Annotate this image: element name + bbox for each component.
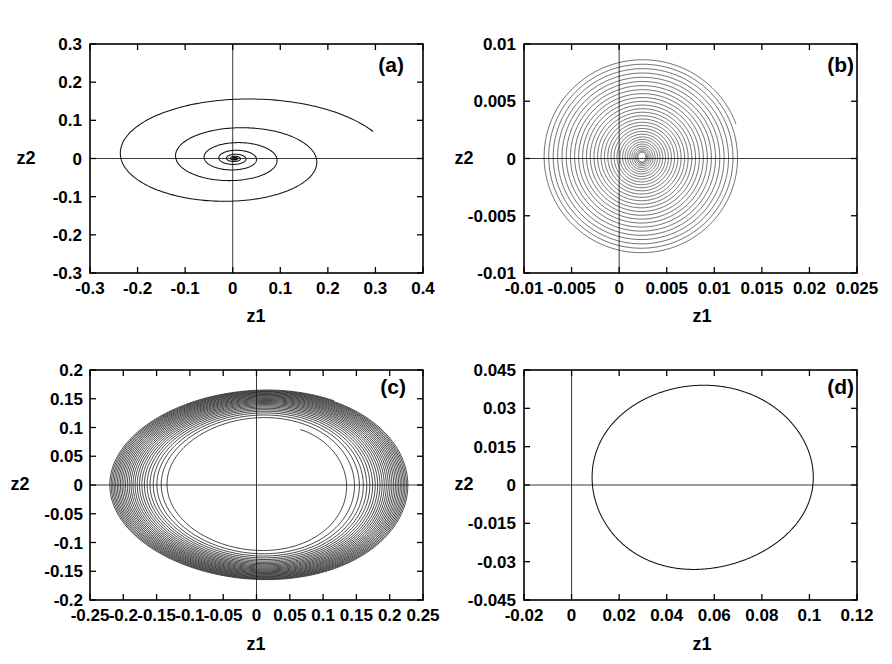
y-tick-label: -0.015 [468, 514, 516, 533]
figure-phase-portraits: -0.3-0.2-0.100.10.20.3 -0.3-0.2-0.100.10… [0, 0, 892, 664]
x-tick-label: 0.2 [378, 606, 402, 625]
x-tick-label: 0.02 [793, 279, 826, 298]
y-tick-label: 0.2 [58, 73, 82, 92]
x-tick-label: 0.15 [340, 606, 373, 625]
panel-c-plot [90, 370, 423, 600]
y-tick-label: 0.01 [483, 35, 516, 54]
panel-c-ticklabels-y: -0.2-0.15-0.1-0.0500.050.10.150.2 [44, 361, 83, 610]
y-tick-label: 0.005 [473, 92, 516, 111]
trajectory-path [120, 99, 372, 201]
y-tick-label: 0 [507, 150, 516, 169]
panel-a-ylabel: z2 [16, 148, 35, 168]
panel-b-trajectory [544, 60, 737, 253]
panel-a-plot [90, 44, 423, 273]
y-tick-label: -0.005 [468, 207, 516, 226]
x-tick-label: 0.02 [603, 606, 636, 625]
x-tick-label: 0.25 [406, 606, 439, 625]
x-tick-label: -0.15 [137, 606, 176, 625]
x-tick-label: 0.08 [745, 606, 778, 625]
panel-c-ticklabels-x: -0.25-0.2-0.15-0.1-0.0500.050.10.150.20.… [71, 606, 440, 625]
panel-d-ticklabels-y: -0.045-0.03-0.01500.0150.030.045 [468, 361, 516, 610]
x-tick-label: -0.25 [71, 606, 110, 625]
x-tick-label: 0.12 [840, 606, 873, 625]
panel-c-ylabel: z2 [10, 474, 29, 494]
x-tick-label: -0.01 [505, 279, 544, 298]
panel-d-trajectory [592, 385, 813, 569]
panel-c-label: (c) [380, 375, 406, 398]
panel-d: -0.045-0.03-0.01500.0150.030.045 -0.0200… [446, 332, 892, 664]
panel-d-svg: -0.045-0.03-0.01500.0150.030.045 -0.0200… [446, 332, 892, 664]
y-tick-label: 0.1 [58, 111, 82, 130]
panel-b-svg: -0.01-0.00500.0050.01 -0.01-0.00500.0050… [446, 0, 892, 332]
trajectory-path [544, 60, 737, 253]
x-tick-label: 0.015 [741, 279, 784, 298]
x-tick-label: -0.2 [123, 279, 152, 298]
panel-c-svg: -0.2-0.15-0.1-0.0500.050.10.150.2 -0.25-… [0, 332, 446, 664]
y-tick-label: 0 [507, 476, 516, 495]
y-tick-label: 0.1 [59, 419, 83, 438]
x-tick-label: 0.1 [798, 606, 822, 625]
x-tick-label: 0 [228, 279, 237, 298]
x-tick-label: 0 [567, 606, 576, 625]
y-tick-label: 0 [74, 476, 83, 495]
x-tick-label: -0.02 [505, 606, 544, 625]
panel-b-ticklabels-y: -0.01-0.00500.0050.01 [468, 35, 516, 283]
y-tick-label: 0.2 [59, 361, 83, 380]
panel-d-ticklabels-x: -0.0200.020.040.060.080.10.12 [505, 606, 874, 625]
x-tick-label: 0.1 [268, 279, 292, 298]
panel-a-svg: -0.3-0.2-0.100.10.20.3 -0.3-0.2-0.100.10… [0, 0, 446, 332]
y-tick-label: -0.1 [54, 534, 83, 553]
x-tick-label: 0 [614, 279, 623, 298]
y-tick-label: -0.03 [477, 553, 516, 572]
y-tick-label: -0.15 [44, 562, 83, 581]
y-tick-label: -0.1 [53, 188, 82, 207]
x-tick-label: 0.2 [316, 279, 340, 298]
x-tick-label: 0.06 [698, 606, 731, 625]
y-tick-label: 0 [73, 150, 82, 169]
panel-d-label: (d) [827, 375, 854, 398]
panel-b-zero-axes [524, 44, 857, 273]
y-tick-label: 0.3 [58, 35, 82, 54]
panel-b-label: (b) [827, 53, 854, 76]
panel-c-xlabel: z1 [246, 634, 265, 654]
y-tick-label: 0.045 [473, 361, 516, 380]
x-tick-label: 0.05 [273, 606, 306, 625]
x-tick-label: -0.1 [170, 279, 199, 298]
x-tick-label: 0.3 [364, 279, 388, 298]
panel-c: -0.2-0.15-0.1-0.0500.050.10.150.2 -0.25-… [0, 332, 446, 664]
trajectory-path [592, 385, 813, 569]
y-tick-label: -0.05 [44, 505, 83, 524]
y-tick-label: -0.2 [53, 226, 82, 245]
panel-d-ylabel: z2 [454, 474, 473, 494]
panel-b-plot [524, 44, 857, 273]
x-tick-label: -0.2 [109, 606, 138, 625]
x-tick-label: 0.4 [411, 279, 435, 298]
x-tick-label: 0.01 [698, 279, 731, 298]
x-tick-label: 0.04 [650, 606, 684, 625]
panel-d-xlabel: z1 [692, 634, 711, 654]
panel-a-ticklabels-x: -0.3-0.2-0.100.10.20.30.4 [75, 279, 435, 298]
panel-b-xlabel: z1 [692, 306, 711, 326]
x-tick-label: -0.3 [75, 279, 104, 298]
panel-a-ticklabels-y: -0.3-0.2-0.100.10.20.3 [53, 35, 82, 283]
panel-b-ticklabels-x: -0.01-0.00500.0050.010.0150.020.025 [505, 279, 879, 298]
panel-a-trajectory [120, 99, 372, 201]
panel-b: -0.01-0.00500.0050.01 -0.01-0.00500.0050… [446, 0, 892, 332]
panel-a-label: (a) [378, 53, 404, 76]
x-tick-label: -0.1 [175, 606, 204, 625]
panel-d-zero-axes [524, 370, 857, 600]
y-tick-label: 0.15 [50, 390, 83, 409]
x-tick-label: -0.005 [547, 279, 595, 298]
x-tick-label: 0.1 [311, 606, 335, 625]
x-tick-label: -0.05 [204, 606, 243, 625]
panel-b-ylabel: z2 [454, 148, 473, 168]
y-tick-label: 0.05 [50, 447, 83, 466]
x-tick-label: 0.025 [836, 279, 879, 298]
panel-d-plot [524, 370, 857, 600]
x-tick-label: 0 [252, 606, 261, 625]
x-tick-label: 0.005 [645, 279, 688, 298]
y-tick-label: 0.03 [483, 399, 516, 418]
y-tick-label: 0.015 [473, 438, 516, 457]
panel-a-xlabel: z1 [246, 306, 265, 326]
panel-a: -0.3-0.2-0.100.10.20.3 -0.3-0.2-0.100.10… [0, 0, 446, 332]
